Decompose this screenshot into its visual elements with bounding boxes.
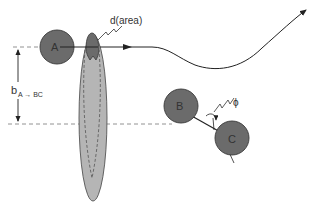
impact-parameter-label: b	[11, 84, 17, 96]
area-leader-line	[98, 26, 122, 40]
angle-arc	[206, 114, 216, 120]
atom-b-label: B	[176, 100, 183, 112]
atom-c-label: C	[228, 133, 236, 145]
collision-diagram: A d(area) b A → BC B C ϕ	[0, 0, 316, 213]
impact-parameter-subscript: A → BC	[18, 91, 43, 98]
cross-section-label: d(area)	[110, 15, 142, 26]
cross-section-ellipse	[79, 35, 107, 201]
angle-leader-line	[214, 98, 234, 112]
trajectory-arrowhead	[123, 44, 132, 50]
angle-label: ϕ	[233, 97, 239, 108]
atom-a-label: A	[51, 41, 59, 53]
